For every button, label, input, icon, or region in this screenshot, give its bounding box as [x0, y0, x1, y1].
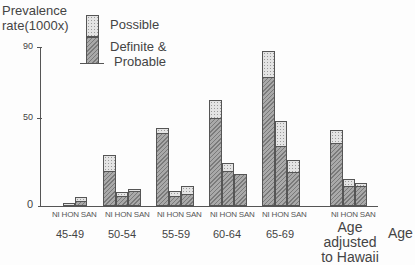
legend-label-definite-line1: Definite & [110, 39, 166, 54]
bar-60-64-ni-possible [209, 100, 222, 119]
bar-65-69-hon-definite [275, 146, 287, 206]
sub-label-50-54: NI HON SAN [105, 210, 150, 219]
y-tick-label-50: 50 [13, 112, 33, 122]
x-axis-label: Age [388, 226, 413, 241]
y-axis-label-line1: Prevalence [2, 3, 68, 18]
bar-65-69-ni-definite [262, 77, 275, 206]
y-tick-label-90: 90 [13, 41, 33, 51]
bar-adjusted-hon-definite [343, 186, 355, 206]
bar-50-54-san-definite [128, 191, 141, 206]
y-tick-90 [37, 47, 42, 48]
bar-45-49-hon-possible [63, 203, 75, 206]
bar-adjusted-ni-definite [330, 143, 343, 206]
legend: Possible Definite & Probable [85, 0, 235, 66]
bar-50-54-ni-definite [103, 171, 116, 206]
bar-65-69-san-definite [287, 172, 300, 206]
sub-label-55-59: NI HON SAN [157, 210, 202, 219]
y-tick-50 [37, 118, 42, 119]
bar-55-59-hon-definite [169, 196, 181, 206]
sub-label-65-69: NI HON SAN [262, 210, 307, 219]
sub-label-45-49: NI HON SAN [52, 210, 97, 219]
legend-swatch-definite [86, 37, 99, 64]
legend-label-definite-line2: Probable [110, 54, 166, 69]
group-label-50-54: 50-54 [92, 228, 152, 240]
bar-55-59-ni-definite [156, 133, 169, 206]
y-axis-label-line2: rate(1000x) [2, 18, 68, 33]
y-axis [40, 47, 41, 207]
group-label-60-64: 60-64 [197, 228, 257, 240]
y-tick-label-0: 0 [13, 198, 33, 210]
bar-55-59-san-definite [181, 194, 194, 206]
group-label-adjusted-line1: Age adjusted [312, 220, 388, 250]
bar-60-64-hon-definite [222, 171, 234, 206]
group-label-65-69: 65-69 [250, 228, 310, 240]
bar-65-69-hon-possible [275, 121, 287, 147]
x-axis [38, 206, 378, 207]
bar-50-54-ni-possible [103, 155, 116, 172]
group-label-45-49: 45-49 [40, 228, 100, 240]
bar-45-49-san-possible [75, 197, 87, 202]
sub-label-60-64: NI HON SAN [210, 210, 255, 219]
legend-label-definite: Definite & Probable [110, 39, 166, 69]
legend-swatch-possible [86, 15, 99, 37]
bar-50-54-hon-definite [116, 196, 128, 206]
bar-adjusted-san-definite [355, 186, 367, 206]
legend-label-possible: Possible [110, 17, 159, 32]
bar-60-64-ni-definite [209, 118, 222, 206]
y-axis-label: Prevalence rate(1000x) [2, 3, 68, 33]
bar-adjusted-ni-possible [330, 130, 343, 144]
group-label-adjusted: Age adjusted to Hawaii [312, 220, 388, 265]
legend-baseline [80, 63, 104, 64]
bar-65-69-ni-possible [262, 51, 275, 78]
group-label-adjusted-line2: to Hawaii [312, 250, 388, 265]
bar-60-64-san-definite [234, 174, 247, 206]
sub-label-adjusted: NI HON SAN [331, 210, 376, 219]
